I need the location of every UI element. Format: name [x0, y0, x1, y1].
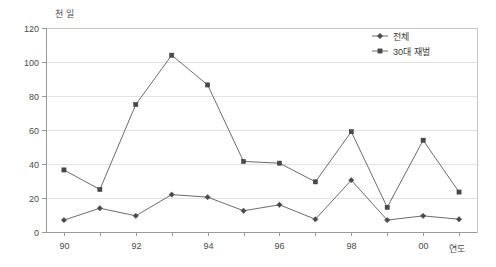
chart-legend: 전체30대 재벌 — [372, 32, 430, 57]
data-point-square — [170, 53, 174, 57]
data-point-diamond — [241, 208, 246, 213]
data-point-square — [277, 161, 281, 165]
y-axis-title: 천 일 — [55, 9, 74, 19]
data-point-square — [241, 159, 245, 163]
data-point-diamond — [133, 213, 138, 218]
legend-label: 30대 재벌 — [393, 47, 430, 57]
y-tick-label: 20 — [29, 194, 39, 204]
x-tick-label: 90 — [59, 241, 69, 251]
data-series — [61, 53, 461, 223]
data-point-square — [457, 190, 461, 194]
data-point-square — [385, 205, 389, 209]
data-point-diamond — [420, 213, 425, 218]
x-tick-label: 96 — [274, 241, 284, 251]
data-point-diamond — [456, 217, 461, 222]
data-point-diamond — [277, 202, 282, 207]
legend-item-1[interactable]: 전체 — [372, 32, 409, 42]
y-axis-ticks: 020406080100120 — [24, 24, 46, 238]
legend-item-2[interactable]: 30대 재벌 — [372, 47, 430, 57]
y-tick-label: 120 — [24, 24, 39, 34]
x-tick-label: 92 — [131, 241, 141, 251]
line-chart: 020406080100120 909294969800 천 일 연도 전체30… — [0, 0, 496, 267]
data-point-square — [98, 187, 102, 191]
y-tick-label: 40 — [29, 160, 39, 170]
data-point-diamond — [205, 194, 210, 199]
data-point-square — [206, 83, 210, 87]
x-tick-label: 00 — [418, 241, 428, 251]
data-point-diamond — [169, 192, 174, 197]
y-tick-label: 80 — [29, 92, 39, 102]
legend-label: 전체 — [393, 32, 409, 42]
x-tick-label: 94 — [203, 241, 213, 251]
data-point-diamond — [97, 206, 102, 211]
data-point-square — [313, 180, 317, 184]
data-point-diamond — [377, 33, 382, 38]
y-tick-label: 60 — [29, 126, 39, 136]
data-point-square — [349, 130, 353, 134]
data-point-diamond — [61, 217, 66, 222]
data-point-square — [421, 138, 425, 142]
x-tick-label: 98 — [346, 241, 356, 251]
series-1 — [61, 177, 461, 222]
x-axis-ticks: 909294969800 — [59, 232, 459, 251]
data-point-square — [378, 49, 382, 53]
series-line — [64, 180, 459, 220]
y-tick-label: 100 — [24, 58, 39, 68]
data-point-square — [62, 168, 66, 172]
series-line — [64, 55, 459, 207]
y-tick-label: 0 — [34, 228, 39, 238]
chart-container: 020406080100120 909294969800 천 일 연도 전체30… — [0, 0, 496, 267]
series-2 — [62, 53, 461, 209]
x-axis-title: 연도 — [449, 244, 465, 254]
data-point-square — [134, 102, 138, 106]
